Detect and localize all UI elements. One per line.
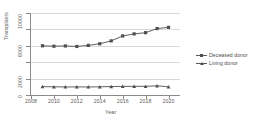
x-tick-label-2012: 2012 <box>71 99 83 104</box>
data-point <box>75 45 78 48</box>
triangle-marker-icon <box>196 61 207 66</box>
series-line-0 <box>42 27 168 46</box>
data-point <box>155 27 158 30</box>
chart-figure: 10000 6000 2000 0 2008 2010 2012 2014 20… <box>0 0 259 132</box>
plot-area <box>31 13 180 95</box>
x-tick-label-2020: 2020 <box>163 99 175 104</box>
y-axis-title: Transplants <box>4 12 9 40</box>
y-tick-6000 <box>26 46 31 47</box>
data-point <box>110 39 113 42</box>
x-tick-label-2018: 2018 <box>140 99 152 104</box>
y-tick-label-6000: 6000 <box>18 45 23 57</box>
chart-legend: Deceased donor Living donor <box>196 53 248 67</box>
x-tick-label-2016: 2016 <box>117 99 129 104</box>
data-point <box>87 44 90 47</box>
clipped-text-below-figure <box>6 126 126 132</box>
data-point <box>133 32 136 35</box>
data-point <box>121 34 124 37</box>
legend-label-deceased-donor: Deceased donor <box>209 53 248 59</box>
y-tick-10000 <box>26 13 31 14</box>
data-point <box>144 31 147 34</box>
x-tick-label-2008: 2008 <box>25 99 37 104</box>
series-layer <box>31 13 180 95</box>
data-point <box>64 44 67 47</box>
x-axis-title: Year <box>105 110 116 115</box>
square-marker-icon <box>196 53 207 58</box>
y-tick-label-0: 0 <box>18 95 23 98</box>
x-tick-label-2014: 2014 <box>94 99 106 104</box>
legend-item-deceased-donor[interactable]: Deceased donor <box>196 53 248 59</box>
y-tick-label-10000: 10000 <box>18 14 23 29</box>
data-point <box>98 42 101 45</box>
legend-label-living-donor: Living donor <box>209 61 238 67</box>
y-tick-8000 <box>26 29 31 30</box>
y-tick-label-2000: 2000 <box>18 76 23 88</box>
x-tick-label-2010: 2010 <box>48 99 60 104</box>
y-axis-line <box>30 13 31 96</box>
data-point <box>167 26 170 29</box>
series-line-1 <box>42 86 168 87</box>
legend-item-living-donor[interactable]: Living donor <box>196 61 248 67</box>
y-tick-2000 <box>26 79 31 80</box>
data-point <box>41 44 44 47</box>
data-point <box>52 45 55 48</box>
y-tick-4000 <box>26 62 31 63</box>
